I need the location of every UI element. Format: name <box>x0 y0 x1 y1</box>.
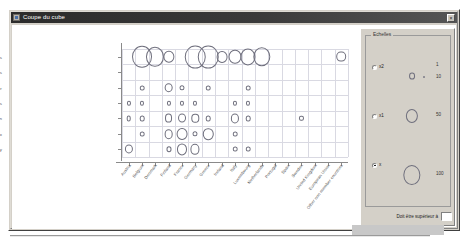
chart-bubble <box>178 114 186 123</box>
scale-option-label: x1 <box>379 113 384 119</box>
threshold-filter-input[interactable] <box>441 212 452 221</box>
radio-x1-icon[interactable] <box>372 114 377 119</box>
application-window: Coupe du cube × Foreign trade indicesInd… <box>8 9 460 231</box>
legend-value: 50 <box>436 112 441 118</box>
title-bar[interactable]: Coupe du cube × <box>11 12 457 23</box>
legend-value: 100 <box>436 171 444 177</box>
chart-bubble <box>246 101 250 106</box>
radio-x2-icon[interactable] <box>372 65 377 70</box>
chart-bubble <box>246 85 251 90</box>
y-axis-tick <box>118 88 122 89</box>
chart-bubble <box>180 101 184 106</box>
y-axis-label: Indices of new orders <box>0 70 2 75</box>
chart-bubble <box>233 131 238 136</box>
chart-bubble <box>176 128 187 140</box>
chart-bubble <box>140 85 145 90</box>
chart-bubble <box>206 85 211 90</box>
gridline-vertical <box>348 49 349 157</box>
chart-bubble <box>206 116 211 121</box>
chart-bubble <box>125 145 133 154</box>
gridline-horizontal <box>122 95 348 96</box>
y-axis-tick <box>118 134 122 135</box>
chart-bubble <box>179 85 184 91</box>
chart-bubble <box>166 101 170 106</box>
chart-bubble <box>164 129 173 139</box>
chart-bubble <box>165 114 173 123</box>
legend-bubble <box>406 109 418 123</box>
y-axis-tick <box>118 103 122 104</box>
chart-bubble <box>233 101 237 106</box>
chart-bubble <box>140 116 145 121</box>
chart-bubble <box>140 101 144 106</box>
gridline-horizontal <box>122 111 348 112</box>
legend-bubble <box>423 76 425 78</box>
chart-bubble <box>246 147 251 152</box>
y-axis-label: Indices of turnover <box>0 86 2 91</box>
scale-option-x[interactable]: x <box>372 162 381 168</box>
chart-bubble <box>140 131 145 136</box>
y-axis-label: Social indicators in industry <box>0 147 2 152</box>
window-title: Coupe du cube <box>23 14 447 21</box>
chart-bubble <box>164 83 173 93</box>
chart-bubble <box>193 101 197 106</box>
y-axis-label: Production <box>0 116 2 121</box>
bubble-chart: Foreign trade indicesIndices of new orde… <box>12 25 356 229</box>
radio-x-icon[interactable] <box>372 163 377 168</box>
legend-value: 1 <box>436 62 439 68</box>
chart-bubble <box>126 116 131 121</box>
chart-bubble <box>231 114 239 123</box>
plot-area: Foreign trade indicesIndices of new orde… <box>122 49 348 157</box>
threshold-filter-row: Doit être supérieur à <box>367 212 452 221</box>
scale-option-label: x <box>379 162 381 168</box>
scale-option-x2[interactable]: x2 <box>372 64 384 70</box>
scale-groupbox: Echelles x2x1x11050100 <box>365 35 451 207</box>
chart-bubble <box>337 51 347 62</box>
scale-groupbox-title: Echelles <box>371 32 393 38</box>
footer-divider-light <box>10 236 430 237</box>
y-axis-label: Foreign trade indices <box>0 55 2 60</box>
footer-corner-block <box>352 225 444 235</box>
close-icon[interactable]: × <box>447 14 455 22</box>
controls-panel: Echelles x2x1x11050100 Doit être supérie… <box>360 28 455 226</box>
chart-bubble <box>193 131 198 137</box>
legend-bubble <box>409 73 415 80</box>
y-axis-tick <box>118 118 122 119</box>
scale-option-x1[interactable]: x1 <box>372 113 384 119</box>
chart-bubble <box>203 128 213 140</box>
y-axis-tick <box>118 149 122 150</box>
chart-bubble <box>191 144 200 154</box>
gridline-horizontal <box>122 142 348 143</box>
chart-bubble <box>177 144 187 155</box>
chart-bubble <box>233 147 238 152</box>
window-app-icon <box>13 14 20 21</box>
scale-option-label: x2 <box>379 64 384 70</box>
gridline-horizontal <box>122 126 348 127</box>
legend-value: 10 <box>436 74 441 80</box>
chart-bubble <box>229 49 242 64</box>
threshold-filter-label: Doit être supérieur à <box>396 213 438 220</box>
y-axis-label: Sectoral producer price index <box>0 132 2 137</box>
y-axis-tick <box>118 72 122 73</box>
legend-bubble <box>403 165 420 185</box>
gridline-horizontal <box>122 157 348 158</box>
y-axis-tick <box>118 57 122 58</box>
chart-bubble <box>163 50 174 63</box>
chart-bubble <box>216 51 227 63</box>
chart-bubble <box>299 116 303 121</box>
chart-bubble <box>127 101 131 106</box>
client-area: Foreign trade indicesIndices of new orde… <box>12 25 456 227</box>
chart-bubble <box>166 146 171 152</box>
gridline-horizontal <box>122 80 348 81</box>
chart-bubble <box>246 116 251 121</box>
chart-bubble <box>191 114 198 122</box>
y-axis-label: Productivity indices <box>0 101 2 106</box>
